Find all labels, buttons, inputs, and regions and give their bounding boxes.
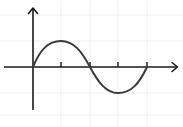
- diagram-canvas: [0, 0, 183, 127]
- sine-wave-diagram: [0, 0, 183, 127]
- background-grid: [0, 0, 183, 127]
